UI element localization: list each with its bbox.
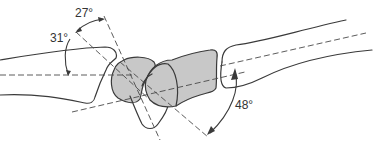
metacarpal-bone-top (222, 20, 346, 62)
capitate-metacarpal-block (145, 50, 217, 107)
wrist-angle-diagram: 27° 31° 48° (0, 0, 377, 147)
arrowhead-48-top (231, 68, 238, 80)
metacarpal-axis (220, 33, 366, 66)
angle-label-48: 48° (235, 98, 253, 112)
metacarpal-bone-bottom (221, 50, 372, 88)
angle-label-31: 31° (50, 31, 68, 45)
diagram-canvas (0, 0, 377, 147)
arrowhead-48-bottom (207, 126, 215, 135)
angle-label-27: 27° (75, 6, 93, 20)
arrowhead-27-right (98, 17, 105, 22)
